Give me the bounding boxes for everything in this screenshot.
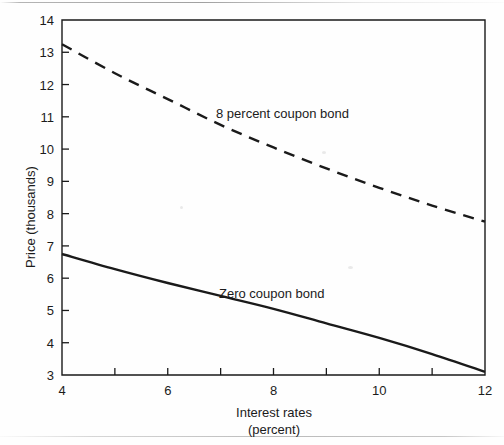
y-axis-title: Price (thousands) [24,166,37,268]
x-axis-tick-label: 12 [470,384,500,397]
y-axis-tick-label: 14 [26,14,54,27]
y-axis-tick-label: 10 [26,143,54,156]
x-axis-title-unit: (percent) [174,423,374,436]
x-axis-tick-label: 10 [364,384,394,397]
y-axis-ticks [62,52,69,342]
series-line-zero-coupon-bond [62,254,485,372]
y-axis-tick-label: 3 [26,369,54,382]
x-axis-tick-label: 6 [153,384,183,397]
x-axis-title: Interest rates [174,406,374,419]
y-axis-tick-label: 11 [26,111,54,124]
x-axis-tick-label: 8 [259,384,289,397]
x-axis-ticks [115,368,432,375]
y-axis-tick-label: 4 [26,337,54,350]
bond-price-chart-figure: 34567891011121314 4681012 Price (thousan… [0,0,504,445]
series-group [62,44,485,372]
y-axis-tick-label: 6 [26,272,54,285]
y-axis-tick-label: 13 [26,46,54,59]
axis-frame [62,20,485,375]
annotation-8-percent-coupon-bond: 8 percent coupon bond [216,107,349,120]
y-axis-tick-label: 5 [26,304,54,317]
annotation-zero-coupon-bond: Zero coupon bond [219,287,325,300]
series-line-8-percent-coupon-bond [62,44,485,222]
x-axis-tick-label: 4 [47,384,77,397]
plot-canvas [0,0,504,445]
y-axis-tick-label: 12 [26,79,54,92]
